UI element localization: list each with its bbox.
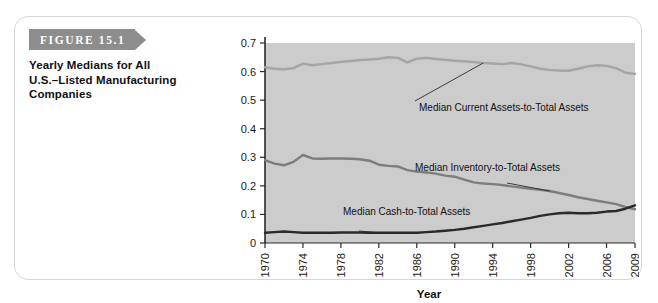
line-chart: 00.10.20.30.40.50.60.7 19701974197819821…	[219, 25, 639, 277]
x-axis-tick-label: 1998	[525, 253, 537, 277]
x-axis-tick-label: 1990	[449, 253, 461, 277]
y-axis-tick-labels: 00.10.20.30.40.50.60.7	[241, 37, 256, 249]
y-axis-tick-label: 0.7	[241, 37, 256, 49]
y-axis-tick-label: 0.4	[241, 123, 256, 135]
x-axis-tick-label: 1994	[487, 253, 499, 277]
x-axis-tick-label: 2009	[629, 253, 639, 277]
y-axis-tick-label: 0.5	[241, 94, 256, 106]
x-axis-tick-label: 1982	[373, 253, 385, 277]
y-axis-tick-label: 0.2	[241, 180, 256, 192]
figure-caption-line-3: Companies	[29, 87, 204, 102]
figure-panel: FIGURE 15.1 Yearly Medians for All U.S.–…	[14, 16, 642, 280]
y-axis-tick-label: 0.6	[241, 66, 256, 78]
series-annotation-label: Median Current Assets-to-Total Assets	[419, 102, 589, 113]
figure-caption-line-1: Yearly Medians for All	[29, 58, 204, 73]
figure-banner-band: FIGURE 15.1	[29, 29, 135, 50]
x-axis-tick-label: 2002	[563, 253, 575, 277]
x-axis-tick-label: 2006	[601, 253, 613, 277]
x-axis-tick-label: 1978	[335, 253, 347, 277]
x-axis-tick-label: 1986	[411, 253, 423, 277]
y-axis-tick-label: 0.1	[241, 208, 256, 220]
x-axis-tick-label: 1970	[259, 253, 271, 277]
x-axis-title: Year	[219, 288, 639, 300]
series-annotation-label: Median Inventory-to-Total Assets	[415, 162, 560, 173]
figure-caption: Yearly Medians for All U.S.–Listed Manuf…	[29, 58, 204, 102]
figure-banner-arrow-icon	[135, 30, 146, 50]
chart-svg: 00.10.20.30.40.50.60.7 19701974197819821…	[219, 25, 639, 277]
figure-caption-line-2: U.S.–Listed Manufacturing	[29, 73, 204, 88]
figure-banner: FIGURE 15.1	[29, 29, 146, 50]
figure-label: FIGURE 15.1	[40, 34, 125, 46]
y-axis-tick-label: 0	[250, 237, 256, 249]
series-annotation-label: Median Cash-to-Total Assets	[343, 206, 470, 217]
x-axis-tick-labels: 1970197419781982198619901994199820022006…	[259, 253, 639, 277]
y-axis-tick-label: 0.3	[241, 151, 256, 163]
x-axis-tick-marks	[265, 243, 635, 248]
x-axis-tick-label: 1974	[297, 253, 309, 277]
